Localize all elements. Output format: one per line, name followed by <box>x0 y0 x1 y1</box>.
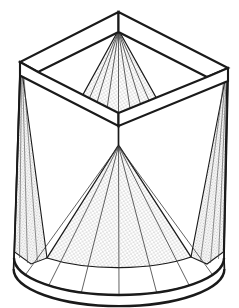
front-fan-rib-4 <box>119 146 120 295</box>
figure-root: Square-to-Round Transition Piece Isometr… <box>0 0 239 308</box>
transition-piece-drawing <box>0 0 239 308</box>
